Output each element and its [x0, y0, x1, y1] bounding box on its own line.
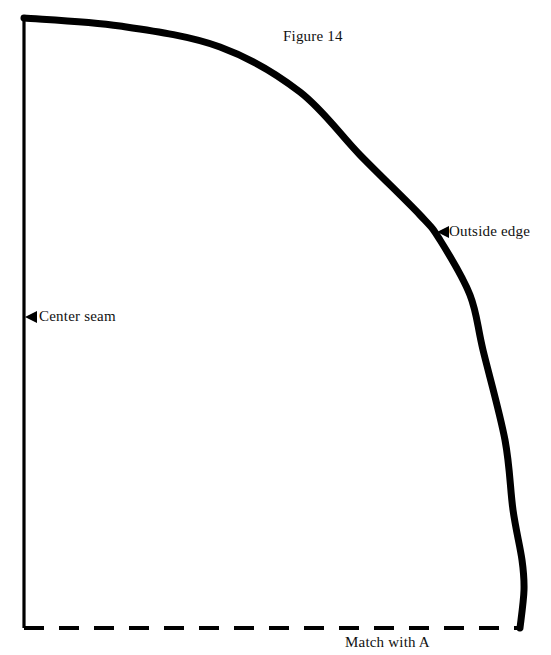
outside-edge-label: Outside edge [449, 224, 530, 239]
figure-page: Figure 14 Outside edge Center seam Match… [0, 0, 551, 655]
pattern-diagram [0, 0, 551, 655]
match-with-a-label: Match with A [345, 635, 430, 650]
center-seam-arrow-icon [25, 311, 37, 323]
figure-title: Figure 14 [283, 29, 343, 44]
center-seam-label: Center seam [39, 309, 116, 324]
